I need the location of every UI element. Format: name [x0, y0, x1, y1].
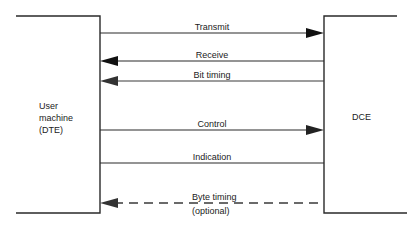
dte-label-line-1: User [39, 100, 73, 112]
arrow-right-icon [306, 125, 324, 135]
label-transmit: Transmit [195, 22, 230, 32]
dce-label: DCE [352, 112, 371, 122]
label-byte-timing-optional: (optional) [192, 206, 230, 216]
label-control: Control [197, 119, 226, 129]
arrow-left-icon [100, 198, 118, 208]
label-bit-timing: Bit timing [193, 70, 230, 80]
label-indication: Indication [193, 152, 232, 162]
arrow-left-icon [100, 76, 118, 86]
dte-label-line-3: (DTE) [39, 124, 73, 136]
label-byte-timing: Byte timing [192, 192, 237, 202]
label-receive: Receive [196, 50, 229, 60]
dte-label: User machine (DTE) [39, 100, 73, 136]
dte-label-line-2: machine [39, 112, 73, 124]
arrow-left-icon [100, 56, 118, 66]
arrow-right-icon [306, 28, 324, 38]
